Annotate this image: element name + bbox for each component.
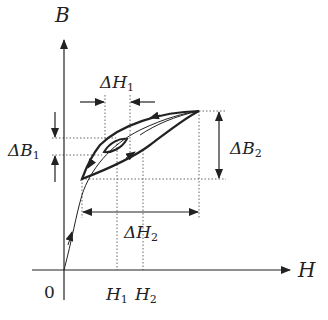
h2-tick-label: H2 [134, 284, 157, 306]
b-axis-label: B [54, 3, 70, 27]
major-hysteresis-loop [82, 111, 199, 179]
initial-magnetization-curve [64, 111, 199, 270]
h1-tick-label: H1 [105, 284, 128, 306]
delta-b1-label: ΔB1 [7, 140, 40, 162]
origin-label: 0 [44, 282, 55, 302]
delta-h1-label: ΔH1 [99, 72, 134, 94]
delta-b2-label: ΔB2 [229, 138, 262, 160]
h-axis-label: H [297, 258, 316, 282]
delta-h2-label: ΔH2 [123, 222, 158, 244]
hysteresis-diagram: B H 0 H1 H2 ΔH1 ΔB1 ΔB2 ΔH2 [0, 0, 328, 320]
